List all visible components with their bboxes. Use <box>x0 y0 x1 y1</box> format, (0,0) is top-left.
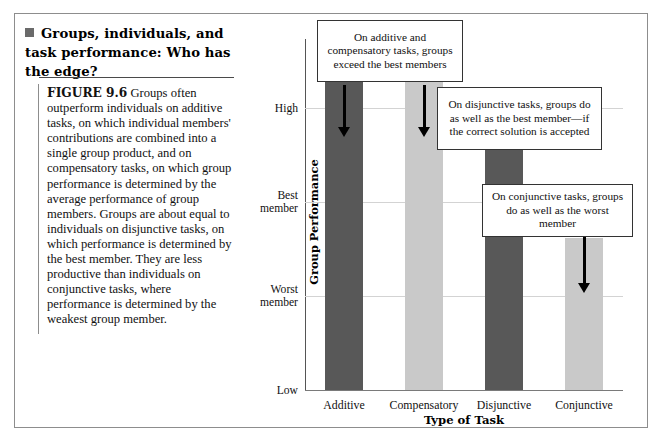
arrow-head <box>338 127 350 137</box>
xtick-label-additive: Additive <box>323 398 364 413</box>
ytick-label-best-member: Bestmember <box>260 189 298 215</box>
figure-title: Groups, individuals, and task performanc… <box>25 24 233 81</box>
x-axis-line <box>305 390 623 391</box>
arrow-shaft <box>583 237 586 283</box>
arrow-head <box>418 127 430 137</box>
xtick-label-conjunctive: Conjunctive <box>555 398 613 413</box>
arrow-shaft <box>423 85 426 127</box>
title-divider <box>39 77 234 78</box>
bar-disjunctive <box>485 144 523 390</box>
chart-panel: Group Performance High Bestmember Worstm… <box>243 14 649 429</box>
figure-frame: Groups, individuals, and task performanc… <box>14 13 648 428</box>
y-axis-line <box>305 39 306 391</box>
arrow-to-compensatory <box>416 85 432 137</box>
arrow-to-conjunctive <box>576 237 592 293</box>
x-axis-title: Type of Task <box>305 413 623 427</box>
figure-caption: FIGURE 9.6 Groups often outperform indiv… <box>47 86 233 328</box>
caption-side-rule <box>38 84 39 334</box>
arrow-shaft <box>343 85 346 127</box>
xtick-label-compensatory: Compensatory <box>390 398 459 413</box>
figure-text-column: Groups, individuals, and task performanc… <box>15 14 243 429</box>
arrow-head <box>578 283 590 293</box>
figure-caption-body: Groups often outperform individuals on a… <box>47 86 232 326</box>
figure-caption-label: FIGURE 9.6 <box>47 86 127 100</box>
callout-disjunctive: On disjunctive tasks, groups do as well … <box>437 87 602 150</box>
callout-additive-compensatory: On additive and compensatory tasks, grou… <box>317 20 463 82</box>
xtick-label-disjunctive: Disjunctive <box>477 398 531 413</box>
figure-title-text: Groups, individuals, and task performanc… <box>25 26 231 79</box>
square-bullet-icon <box>25 28 34 37</box>
ytick-label-worst-member: Worstmember <box>260 283 298 309</box>
ytick-label-low: Low <box>277 384 298 397</box>
arrow-to-additive <box>336 85 352 137</box>
ytick-label-high: High <box>275 102 298 115</box>
callout-conjunctive: On conjunctive tasks, groups do as well … <box>482 184 633 237</box>
